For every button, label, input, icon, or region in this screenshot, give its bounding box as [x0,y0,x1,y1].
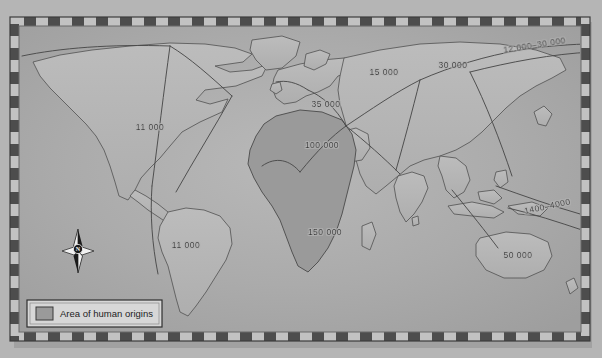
map-label-siberia: 30 000 [439,60,468,70]
legend-swatch [36,307,53,320]
legend-label: Area of human origins [60,308,153,319]
map-label-north-america: 11 000 [136,122,164,132]
map-label-near-east: 100 000 [305,140,339,150]
world-migration-map: 11 000 11 000 35 000 100 000 15 000 30 0… [0,0,602,358]
map-canvas: 11 000 11 000 35 000 100 000 15 000 30 0… [0,0,602,358]
map-label-australia: 50 000 [504,250,533,260]
map-label-south-america: 11 000 [172,240,200,250]
map-label-southern-africa: 150 000 [308,227,342,237]
land-sri-lanka [412,216,419,226]
legend-box[interactable]: Area of human origins [27,300,162,327]
map-label-central-asia: 15 000 [370,67,399,77]
compass-north-label: N [76,246,81,252]
map-label-europe: 35 000 [312,99,341,109]
map-body [20,27,592,331]
